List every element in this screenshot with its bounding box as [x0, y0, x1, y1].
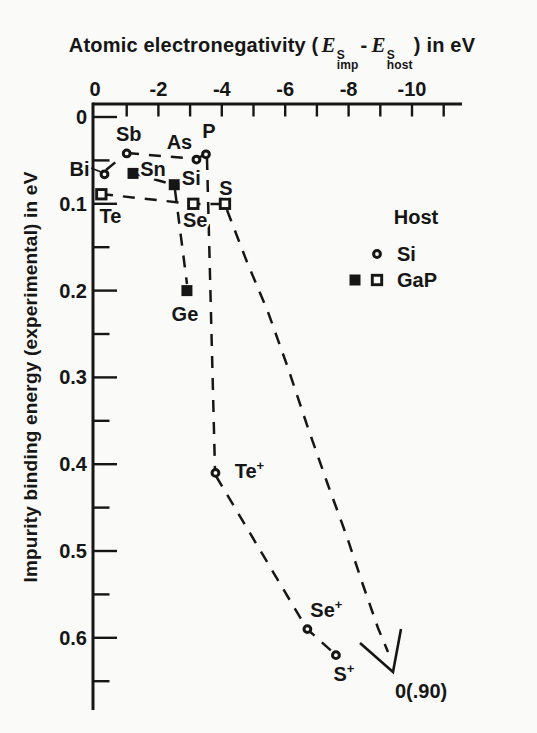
data-point-Sn [128, 168, 139, 179]
connection-line-7 [175, 190, 187, 284]
legend-label-gap: GaP [397, 269, 437, 291]
point-label-Sn: Sn [140, 158, 166, 180]
x-tick-label: 0 [89, 78, 100, 100]
point-label-As: As [167, 131, 193, 153]
point-label-S: S [219, 177, 232, 199]
legend-marker-gap-filled-square [350, 275, 361, 286]
y-tick-label: 0 [76, 106, 87, 128]
data-point-Ge [181, 285, 192, 296]
oxygen-level-annotation: 0(.90) [395, 680, 447, 702]
connection-line-4 [101, 194, 225, 204]
data-point-P [203, 151, 210, 158]
y-tick-label: 0.2 [59, 280, 87, 302]
y-tick-label: 0.5 [59, 540, 87, 562]
data-point-Bi [101, 171, 108, 178]
data-point-As [193, 156, 200, 163]
data-point-S [220, 199, 229, 208]
point-label-Seplus: Se+ [310, 597, 342, 621]
x-tick-label: -6 [276, 78, 294, 100]
data-point-Si [169, 179, 180, 190]
data-point-Teplus [212, 469, 219, 476]
x-tick-label: -2 [150, 78, 168, 100]
point-label-Ge: Ge [172, 303, 199, 325]
data-point-Seplus [304, 626, 311, 633]
connection-line-3 [216, 476, 336, 655]
x-tick-label: -8 [340, 78, 358, 100]
legend-label-si: Si [397, 243, 416, 265]
y-tick-label: 0.3 [59, 366, 87, 388]
y-axis-label: Impurity binding energy (experimental) i… [20, 171, 42, 582]
legend-marker-si-circle [374, 251, 381, 258]
point-label-Teplus: Te+ [235, 458, 265, 482]
point-label-Bi: Bi [70, 158, 90, 180]
scatter-plot: 0-2-4-6-8-1000.10.20.30.40.50.6BiSbAsPTe… [0, 0, 537, 733]
x-tick-label: -10 [398, 78, 427, 100]
data-point-Te [97, 190, 106, 199]
y-tick-label: 0.1 [59, 193, 87, 215]
arrow-to-oxygen [360, 629, 401, 672]
figure-scan: Atomic electronegativity (ESimp-EShost) … [0, 0, 537, 733]
point-label-P: P [202, 120, 215, 142]
data-point-Splus [333, 652, 340, 659]
point-label-Sb: Sb [116, 123, 142, 145]
y-tick-label: 0.4 [59, 453, 88, 475]
data-point-Se [189, 199, 198, 208]
point-label-Si: Si [182, 167, 201, 189]
point-label-Te: Te [99, 205, 121, 227]
x-tick-label: -4 [213, 78, 232, 100]
y-tick-label: 0.6 [59, 627, 87, 649]
point-label-Se: Se [183, 209, 207, 231]
legend-title: Host [394, 206, 439, 228]
legend-marker-gap-open-square [372, 275, 381, 284]
connection-line-5 [227, 210, 388, 652]
point-label-Splus: S+ [333, 661, 354, 685]
connection-line-0 [106, 156, 123, 170]
data-point-Sb [123, 150, 130, 157]
